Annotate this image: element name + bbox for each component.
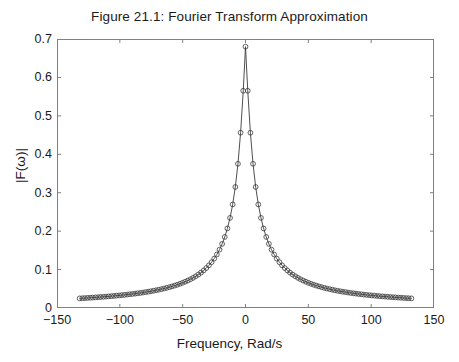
figure-container: Figure 21.1: Fourier Transform Approxima… (0, 0, 459, 362)
y-tick-label: 0.2 (35, 225, 52, 238)
y-axis-tick-labels: 00.10.20.30.40.50.60.7 (0, 0, 52, 362)
y-tick-label: 0.4 (35, 148, 52, 161)
x-tick-label: 150 (424, 314, 445, 327)
x-tick-label: 50 (301, 314, 315, 327)
series-line (80, 47, 412, 299)
x-tick-label: −100 (106, 314, 134, 327)
x-tick-label: 0 (242, 314, 249, 327)
plot-area (57, 39, 434, 308)
x-axis-label: Frequency, Rad/s (0, 336, 459, 351)
x-tick-label: −150 (43, 314, 71, 327)
y-tick-label: 0.3 (35, 187, 52, 200)
x-axis-tick-labels: −150−100−50050100150 (0, 314, 459, 334)
y-tick-label: 0.7 (35, 33, 52, 46)
y-tick-label: 0.5 (35, 110, 52, 123)
x-tick-label: −50 (172, 314, 193, 327)
x-tick-label: 100 (361, 314, 382, 327)
plot-svg (57, 39, 434, 308)
y-tick-label: 0.1 (35, 264, 52, 277)
chart-title: Figure 21.1: Fourier Transform Approxima… (0, 9, 459, 24)
series-markers (77, 44, 414, 301)
y-tick-label: 0.6 (35, 71, 52, 84)
plot-border (58, 40, 434, 308)
